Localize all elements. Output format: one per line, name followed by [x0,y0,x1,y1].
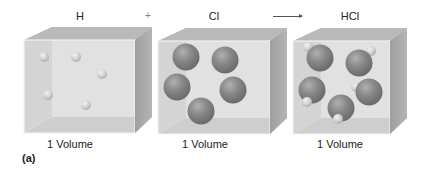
hcl-volume-label: 1 Volume [317,138,363,150]
cl-volume-label: 1 Volume [182,138,228,150]
box-top [158,28,287,41]
h-volume-label: 1 Volume [47,138,93,150]
box-top [24,27,152,40]
box-side [270,28,287,134]
h-box [24,27,152,133]
hcl-box [293,28,407,134]
box-side [390,28,407,134]
cl-box [158,28,287,134]
box-side [135,27,152,133]
part-label: (a) [22,152,35,164]
box-top [293,28,407,41]
